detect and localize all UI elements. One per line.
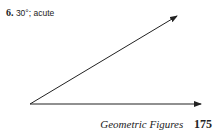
page-number: 175 <box>194 117 212 131</box>
section-title: Geometric Figures <box>100 118 183 130</box>
page-footer: Geometric Figures 175 <box>100 117 212 132</box>
ray-upper <box>30 16 177 104</box>
